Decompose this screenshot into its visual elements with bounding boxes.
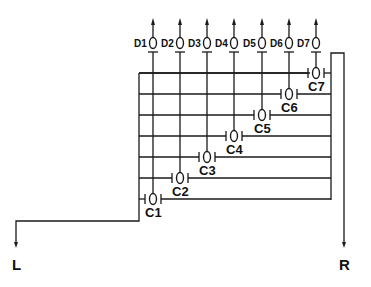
cell-c5: C5: [254, 110, 271, 137]
output-arrow-icon: [205, 18, 209, 25]
drain-device-icon: [231, 38, 238, 49]
cell-c3: C3: [199, 152, 216, 179]
left-terminal-label: L: [12, 256, 21, 273]
output-arrow-icon: [314, 18, 318, 25]
drain-label: D5: [243, 38, 256, 49]
drain-d2: D2: [161, 18, 185, 172]
drain-label: D3: [188, 38, 201, 49]
output-arrow-icon: [151, 18, 155, 25]
output-arrow-icon: [178, 18, 182, 25]
drain-label: D7: [297, 38, 310, 49]
cell-c6: C6: [281, 89, 298, 116]
cell-transistor-icon: [204, 152, 211, 163]
cell-c1: C1: [145, 194, 162, 221]
cell-c4: C4: [226, 131, 243, 158]
transistor-array-schematic: D1D2D3D4D5D6D7 C1C2C3C4C5C6C7 L R: [0, 0, 371, 287]
cell-c7: C7: [308, 68, 325, 95]
cell-label: C4: [226, 142, 243, 157]
cell-transistor-icon: [231, 131, 238, 142]
cell-label: C7: [308, 79, 325, 94]
drain-label: D4: [215, 38, 228, 49]
drain-d6: D6: [270, 18, 294, 88]
cell-label: C3: [199, 163, 216, 178]
output-arrow-icon: [232, 18, 236, 25]
drain-device-icon: [177, 38, 184, 49]
drain-d5: D5: [243, 18, 267, 109]
drain-device-icon: [286, 38, 293, 49]
left-terminal-arrow-icon: [14, 242, 18, 248]
drain-d7: D7: [297, 18, 321, 67]
cell-transistor-icon: [313, 68, 320, 79]
drain-label: D6: [270, 38, 283, 49]
drain-device-icon: [259, 38, 266, 49]
cell-label: C1: [145, 205, 162, 220]
drain-device-icon: [150, 38, 157, 49]
drain-d3: D3: [188, 18, 212, 151]
drain-label: D1: [134, 38, 147, 49]
cell-label: C5: [254, 121, 271, 136]
drain-d4: D4: [215, 18, 239, 130]
cell-transistor-icon: [286, 89, 293, 100]
drain-label: D2: [161, 38, 174, 49]
output-arrow-icon: [287, 18, 291, 25]
cell-transistor-icon: [150, 194, 157, 205]
cell-label: C2: [172, 184, 189, 199]
drain-device-icon: [313, 38, 320, 49]
cell-transistors: C1C2C3C4C5C6C7: [145, 68, 325, 221]
right-bus: [331, 53, 346, 248]
right-terminal-label: R: [339, 256, 350, 273]
output-arrow-icon: [260, 18, 264, 25]
schematic-canvas: D1D2D3D4D5D6D7 C1C2C3C4C5C6C7 L R: [0, 0, 371, 287]
cell-transistor-icon: [259, 110, 266, 121]
cell-label: C6: [281, 100, 298, 115]
drain-d1: D1: [134, 18, 158, 193]
cell-c2: C2: [172, 173, 189, 200]
cell-transistor-icon: [177, 173, 184, 184]
drain-device-icon: [204, 38, 211, 49]
right-terminal-arrow-icon: [342, 242, 346, 248]
left-bus: [14, 73, 139, 248]
